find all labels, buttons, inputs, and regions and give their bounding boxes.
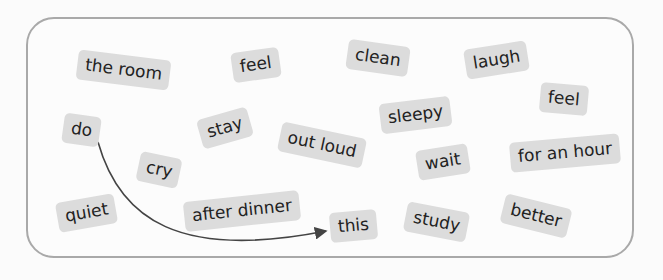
word-tile-do[interactable]: do xyxy=(61,113,102,148)
word-tile-this[interactable]: this xyxy=(329,209,378,243)
word-tile-feel-2[interactable]: feel xyxy=(539,82,589,116)
